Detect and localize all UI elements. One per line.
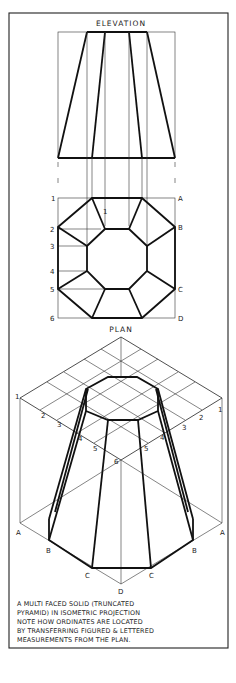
caption-line-4: BY TRANSFERRING FIGURED & LETTERED [17,627,222,636]
plan-label-2: 2 [50,226,54,234]
iso-bottom-D: D [118,588,123,596]
iso-right-A: A [220,529,225,537]
iso-right-C: C [149,572,154,580]
iso-left-C: C [85,572,90,580]
iso-left-A: A [16,529,21,537]
plan-label-C: C [178,286,183,294]
iso-left-2: 2 [41,412,45,420]
caption: A MULTI FACED SOLID (TRUNCATED PYRAMID) … [17,600,222,645]
iso-right-B: B [192,547,197,555]
plan-label-B: B [178,224,183,232]
iso-left-3: 3 [57,421,61,429]
iso-left-B: B [46,547,51,555]
plan-inner-label: 1 [103,208,107,216]
iso-right-4: 4 [160,434,165,442]
plan-label-6: 6 [50,315,55,323]
iso-right-1: 1 [218,406,222,414]
technical-drawing: ELEVATION [0,0,236,683]
elevation-title: ELEVATION [96,19,146,28]
caption-line-3: NOTE HOW ORDINATES ARE LOCATED [17,618,222,627]
caption-line-5: MEASUREMENTS FROM THE PLAN. [17,636,222,645]
plan-label-1: 1 [51,195,55,203]
iso-right-5: 5 [144,445,148,453]
iso-right-3: 3 [182,424,186,432]
elevation-view: ELEVATION [58,19,175,250]
plan-view: 1 2 3 4 5 6 A B C D 1 PLAN [50,195,183,334]
isometric-view: 1 2 3 4 5 1 2 3 4 5 6 A B C A B C D [15,337,225,596]
iso-left-5: 5 [93,445,97,453]
plan-title: PLAN [109,325,133,334]
iso-left-1: 1 [15,393,19,401]
plan-label-A: A [178,195,183,203]
plan-label-4: 4 [50,268,55,276]
plan-label-D: D [178,315,183,323]
plan-label-5: 5 [50,286,54,294]
caption-line-2: PYRAMID) IN ISOMETRIC PROJECTION [17,609,222,618]
plan-label-3: 3 [50,243,54,251]
iso-left-4: 4 [78,435,83,443]
caption-line-1: A MULTI FACED SOLID (TRUNCATED [17,600,222,609]
iso-right-2: 2 [199,414,203,422]
iso-center-6: 6 [114,458,119,466]
